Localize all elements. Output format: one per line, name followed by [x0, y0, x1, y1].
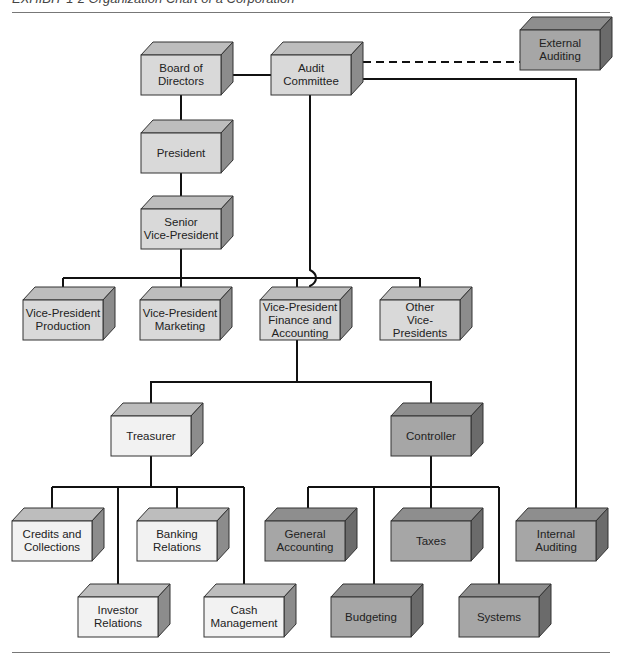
node-label-president: President: [141, 133, 221, 173]
edge-audit-finance: [310, 95, 316, 300]
node-label-banking: Banking Relations: [137, 521, 217, 561]
node-label-vp-marketing: Vice-President Marketing: [140, 300, 220, 340]
node-label-credits: Credits and Collections: [12, 521, 92, 561]
node-label-audit: Audit Committee: [271, 55, 351, 95]
node-label-svp: Senior Vice-President: [141, 209, 221, 249]
node-label-vp-other: Other Vice-Presidents: [380, 300, 460, 340]
node-label-vp-production: Vice-President Production: [23, 300, 103, 340]
node-label-treasurer: Treasurer: [111, 416, 191, 456]
node-label-board: Board of Directors: [141, 55, 221, 95]
node-label-controller: Controller: [391, 416, 471, 456]
node-label-vp-finance: Vice-President Finance and Accounting: [260, 300, 340, 340]
node-label-investor: Investor Relations: [78, 597, 158, 637]
node-label-internal: Internal Auditing: [516, 521, 596, 561]
node-label-cash: Cash Management: [204, 597, 284, 637]
node-label-budgeting: Budgeting: [331, 597, 411, 637]
node-label-external: External Auditing: [520, 30, 600, 70]
node-label-general-accounting: General Accounting: [265, 521, 345, 561]
node-label-systems: Systems: [459, 597, 539, 637]
node-label-taxes: Taxes: [391, 521, 471, 561]
